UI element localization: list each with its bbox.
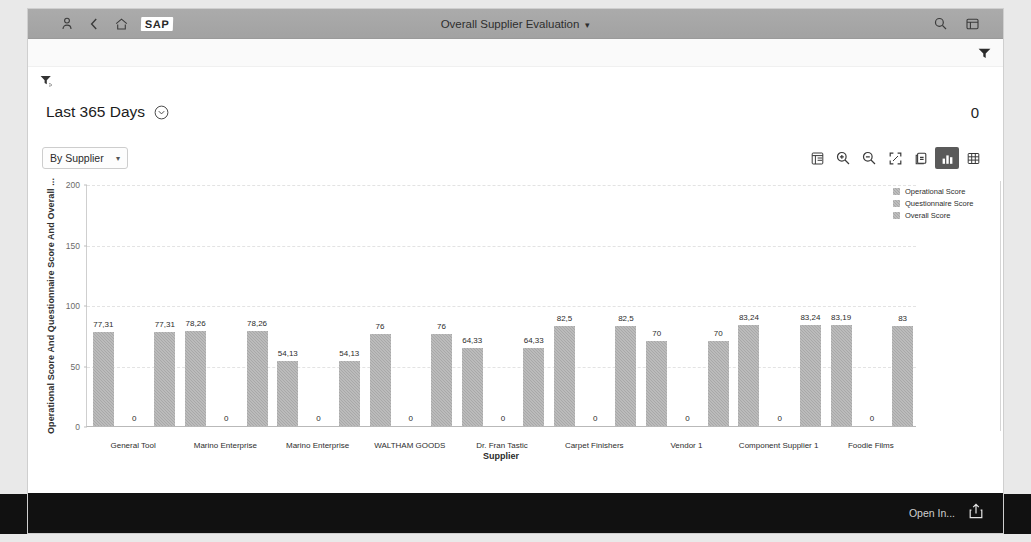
- chart-toolbar: By Supplier ▾: [28, 139, 1003, 177]
- chart-container: Operational Score And Questionnaire Scor…: [28, 177, 1003, 477]
- bar-value-label: 0: [501, 414, 505, 423]
- bar[interactable]: [185, 331, 206, 426]
- legend-label: Operational Score: [905, 187, 965, 196]
- bar-group: 54,13054,13: [272, 185, 364, 426]
- legend-item[interactable]: Questionnaire Score: [893, 199, 993, 208]
- bar[interactable]: [462, 348, 483, 426]
- sap-logo[interactable]: SAP: [141, 17, 174, 31]
- bar-group: 82,5082,5: [549, 185, 641, 426]
- bar-value-label: 70: [652, 329, 661, 338]
- bar-group: 83,24083,24: [734, 185, 826, 426]
- search-icon[interactable]: [933, 17, 947, 31]
- back-chevron-icon[interactable]: [87, 17, 101, 31]
- bar[interactable]: [615, 326, 636, 426]
- legend-item[interactable]: Overall Score: [893, 211, 993, 220]
- chevron-down-circle-icon[interactable]: [154, 105, 169, 120]
- zoom-in-icon[interactable]: [831, 147, 855, 169]
- shell-title: Overall Supplier Evaluation ▾: [28, 18, 1003, 30]
- overflow-menu-icon[interactable]: [965, 17, 979, 31]
- bar-value-label: 82,5: [557, 314, 573, 323]
- bar[interactable]: [646, 341, 667, 426]
- app-window: SAP Overall Supplier Evaluation ▾: [27, 8, 1004, 534]
- table-view-icon[interactable]: [961, 147, 985, 169]
- share-icon[interactable]: [969, 503, 983, 523]
- filter-row: Last 365 Days 0: [46, 103, 985, 121]
- period-filter-label[interactable]: Last 365 Days: [46, 103, 145, 121]
- bar-value-label: 77,31: [155, 320, 175, 329]
- bar-group: 77,31077,31: [88, 185, 180, 426]
- shell-header-right: [933, 17, 993, 31]
- bar-value-label: 77,31: [93, 320, 113, 329]
- chevron-down-icon[interactable]: ▾: [585, 20, 590, 30]
- legend-swatch: [893, 188, 900, 195]
- bar-value-label: 0: [409, 414, 413, 423]
- bottom-action-bar: Open In...: [28, 493, 1003, 533]
- bar[interactable]: [892, 326, 913, 426]
- bar-value-label: 0: [593, 414, 597, 423]
- legend-label: Questionnaire Score: [905, 199, 973, 208]
- bar-value-label: 0: [685, 414, 689, 423]
- x-axis-tick-label: General Tool: [111, 441, 156, 450]
- filter-caret-icon[interactable]: [978, 45, 991, 63]
- bar-group: 70070: [641, 185, 733, 426]
- home-icon[interactable]: [114, 17, 128, 31]
- bar-value-label: 0: [316, 414, 320, 423]
- kpi-value: 0: [971, 104, 985, 121]
- user-icon[interactable]: [60, 17, 74, 31]
- bar-value-label: 0: [870, 414, 874, 423]
- open-in-button[interactable]: Open In...: [909, 507, 955, 519]
- y-axis-tick-mark: [84, 427, 87, 428]
- y-axis-tick-mark: [84, 306, 87, 307]
- x-axis-tick-label: Carpet Finishers: [565, 441, 624, 450]
- bar[interactable]: [370, 334, 391, 426]
- chart-legend: Operational ScoreQuestionnaire ScoreOver…: [893, 187, 993, 223]
- x-axis-tick-label: WALTHAM GOODS: [374, 441, 445, 450]
- dimension-select-label: By Supplier: [50, 152, 104, 164]
- x-axis-tick-label: Marino Enterprise: [194, 441, 257, 450]
- legend-item[interactable]: Operational Score: [893, 187, 993, 196]
- export-icon[interactable]: [909, 147, 933, 169]
- bar[interactable]: [154, 332, 175, 426]
- y-axis-tick-mark: [84, 366, 87, 367]
- x-axis-tick-label: Component Supplier 1: [739, 441, 819, 450]
- bar[interactable]: [554, 326, 575, 426]
- bar-value-label: 78,26: [186, 319, 206, 328]
- bar-value-label: 83,24: [739, 313, 759, 322]
- bar[interactable]: [277, 361, 298, 426]
- chevron-down-icon: ▾: [116, 154, 120, 163]
- filter-bar: Last 365 Days 0: [28, 67, 1003, 139]
- bar[interactable]: [339, 361, 360, 426]
- details-icon[interactable]: [805, 147, 829, 169]
- bar[interactable]: [708, 341, 729, 426]
- x-axis-tick-label: Dr. Fran Tastic: [476, 441, 527, 450]
- bar[interactable]: [800, 325, 821, 426]
- bar[interactable]: [523, 348, 544, 426]
- dimension-select[interactable]: By Supplier ▾: [42, 147, 128, 169]
- chart-view-icon[interactable]: [935, 147, 959, 169]
- bar-value-label: 0: [132, 414, 136, 423]
- bar-value-label: 76: [376, 322, 385, 331]
- bar-group: 64,33064,33: [457, 185, 549, 426]
- bar[interactable]: [738, 325, 759, 426]
- y-axis-tick-mark: [84, 245, 87, 246]
- bar-value-label: 54,13: [278, 349, 298, 358]
- fullscreen-icon[interactable]: [883, 147, 907, 169]
- x-axis-tick-label: Vendor 1: [670, 441, 702, 450]
- bar-value-label: 54,13: [339, 349, 359, 358]
- page-title: Overall Supplier Evaluation: [441, 18, 580, 30]
- legend-label: Overall Score: [905, 211, 950, 220]
- bar[interactable]: [831, 325, 852, 426]
- bar[interactable]: [247, 331, 268, 426]
- bar-value-label: 70: [714, 329, 723, 338]
- x-axis-tick-label: Foodie Films: [848, 441, 894, 450]
- bar[interactable]: [431, 334, 452, 426]
- bar[interactable]: [93, 332, 114, 426]
- plot-area: 050100150200 77,31077,3178,26078,2654,13…: [86, 185, 916, 427]
- bar-value-label: 83,24: [800, 313, 820, 322]
- filter-settings-icon[interactable]: [40, 73, 53, 91]
- bar-value-label: 64,33: [462, 336, 482, 345]
- x-axis-title: Supplier: [86, 451, 916, 461]
- zoom-out-icon[interactable]: [857, 147, 881, 169]
- bar-group: 76076: [365, 185, 457, 426]
- device-screen: SAP Overall Supplier Evaluation ▾: [0, 0, 1031, 542]
